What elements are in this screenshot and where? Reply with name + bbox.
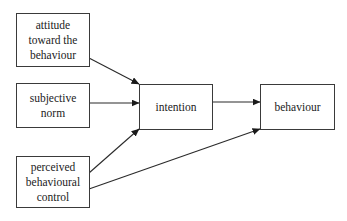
theory-of-planned-behaviour-diagram: attitude toward the behaviour subjective… <box>0 0 347 221</box>
edge-attitude-to-intention <box>89 58 139 84</box>
node-behaviour: behaviour <box>260 84 335 130</box>
node-intention-label: intention <box>156 100 197 115</box>
node-attitude-label: attitude toward the behaviour <box>29 18 78 63</box>
node-intention: intention <box>139 84 213 130</box>
node-perceived-behavioural-control: perceived behavioural control <box>16 156 90 208</box>
node-behaviour-label: behaviour <box>275 100 321 115</box>
edge-pbc-to-intention <box>89 129 139 173</box>
edge-pbc-to-behaviour <box>89 129 260 189</box>
node-attitude: attitude toward the behaviour <box>16 13 90 67</box>
node-subjective-norm: subjective norm <box>16 83 90 128</box>
node-perceived-behavioural-control-label: perceived behavioural control <box>26 160 80 205</box>
node-subjective-norm-label: subjective norm <box>30 91 77 121</box>
